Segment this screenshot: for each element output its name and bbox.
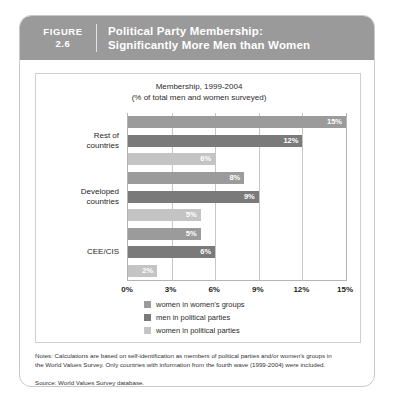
bar-row: 6% xyxy=(128,153,346,165)
figure-title-line-2: Significantly More Men than Women xyxy=(108,38,310,53)
bar-value-label: 12% xyxy=(128,135,302,147)
bar-row: 6% xyxy=(128,246,346,258)
category-label-line: CEE/CIS xyxy=(35,247,119,257)
figure-word: FIGURE xyxy=(32,26,94,38)
legend-swatch-icon xyxy=(144,327,151,334)
figure-title: Political Party Membership: Significantl… xyxy=(108,24,310,53)
header-divider xyxy=(96,24,97,52)
chart-title: Membership, 1999-2004 (% of total men an… xyxy=(36,81,362,103)
figure-notes: Notes: Calculations are based on self-id… xyxy=(35,352,361,369)
chart-title-main: Membership, 1999-2004 xyxy=(36,81,362,92)
category-label-cee-cis: CEE/CIS xyxy=(35,247,119,257)
legend-label: women in political parties xyxy=(156,326,240,335)
bar-row: 9% xyxy=(128,191,346,203)
bar-value-label: 5% xyxy=(128,209,201,221)
plot-area: 15%12%6%8%9%5%5%6%2% xyxy=(127,113,347,281)
notes-line-2: the World Values Survey. Only countries … xyxy=(35,361,361,370)
bar-row: 5% xyxy=(128,209,346,221)
x-tick-12: 12% xyxy=(286,285,316,294)
figure-card: FIGURE 2.6 Political Party Membership: S… xyxy=(19,15,375,387)
bar-row: 5% xyxy=(128,228,346,240)
legend-label: women in women's groups xyxy=(156,300,245,309)
category-label-line: countries xyxy=(35,141,119,151)
x-tick-0: 0% xyxy=(112,285,142,294)
bar-row: 8% xyxy=(128,172,346,184)
x-tick-6: 6% xyxy=(199,285,229,294)
chart-legend: women in women's groupsmen in political … xyxy=(144,298,245,337)
figure-number-label: FIGURE 2.6 xyxy=(20,26,94,50)
legend-item[interactable]: men in political parties xyxy=(144,311,245,324)
x-tick-9: 9% xyxy=(243,285,273,294)
legend-label: men in political parties xyxy=(156,313,230,322)
legend-item[interactable]: women in women's groups xyxy=(144,298,245,311)
category-label-line: countries xyxy=(35,197,119,207)
bar-value-label: 2% xyxy=(128,265,157,277)
notes-line-1: Notes: Calculations are based on self-id… xyxy=(35,352,361,361)
bar-row: 12% xyxy=(128,135,346,147)
bar-value-label: 5% xyxy=(128,228,201,240)
x-tick-15: 15% xyxy=(330,285,360,294)
figure-number: 2.6 xyxy=(32,38,94,50)
legend-swatch-icon xyxy=(144,301,151,308)
chart-panel: Membership, 1999-2004 (% of total men an… xyxy=(35,73,361,343)
bar-value-label: 6% xyxy=(128,153,215,165)
category-label-line: Developed xyxy=(35,187,119,197)
category-label-line: Rest of xyxy=(35,131,119,141)
bar-value-label: 8% xyxy=(128,172,244,184)
legend-item[interactable]: women in political parties xyxy=(144,324,245,337)
legend-swatch-icon xyxy=(144,314,151,321)
bar-value-label: 9% xyxy=(128,191,259,203)
figure-title-line-1: Political Party Membership: xyxy=(108,24,310,39)
category-label-developed: Developedcountries xyxy=(35,187,119,207)
category-label-rest-of: Rest ofcountries xyxy=(35,131,119,151)
figure-source: Source: World Values Survey database. xyxy=(35,379,361,387)
bar-value-label: 15% xyxy=(128,116,346,128)
chart-subtitle: (% of total men and women surveyed) xyxy=(36,92,362,103)
bar-row: 15% xyxy=(128,116,346,128)
x-tick-3: 3% xyxy=(156,285,186,294)
bar-value-label: 6% xyxy=(128,246,215,258)
bar-row: 2% xyxy=(128,265,346,277)
figure-header-banner: FIGURE 2.6 Political Party Membership: S… xyxy=(20,16,375,60)
